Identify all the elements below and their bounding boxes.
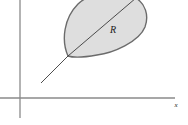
lower-left-ray-line — [41, 56, 68, 83]
figure-container: R x — [0, 0, 188, 125]
region-diagram-svg: R x — [0, 0, 188, 125]
x-axis-label: x — [173, 101, 178, 109]
region-label-R: R — [109, 24, 116, 35]
